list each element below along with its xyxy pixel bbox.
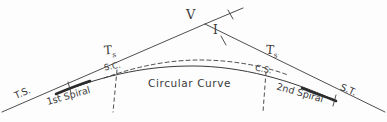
label-intersection-angle: I xyxy=(213,24,218,36)
label-tangent-distance-left: Ts xyxy=(103,44,116,60)
label-circular-curve: Circular Curve xyxy=(148,78,231,89)
label-vertex: V xyxy=(186,8,195,21)
label-tangent-distance-right: Ts xyxy=(265,44,278,60)
angle-tick-upper xyxy=(228,10,233,19)
angle-tick-lower xyxy=(221,36,226,45)
forward-tangent-line xyxy=(205,24,385,112)
spiral-curve-diagram: V I Ts Ts T.S. S.T. S.C. C.S. 1st Spiral… xyxy=(0,0,387,122)
label-tangent-left-subscript: s xyxy=(112,50,116,59)
label-tangent-right-subscript: s xyxy=(273,51,277,60)
sc-dashed-dropline xyxy=(113,70,117,112)
cs-dashed-dropline xyxy=(263,72,266,112)
tangent-extension-line xyxy=(205,8,243,24)
